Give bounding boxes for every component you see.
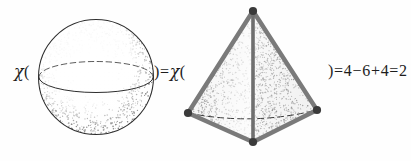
euler-characteristic-result: 2 bbox=[399, 62, 407, 79]
equals-sign-first: = bbox=[334, 62, 344, 79]
tetrahedron-vertex-right bbox=[313, 106, 321, 114]
chi-symbol-left: χ bbox=[14, 62, 24, 81]
close-paren-middle: ) bbox=[154, 63, 160, 80]
expression-right: )=4−6+4=2 bbox=[328, 62, 407, 80]
chi-symbol-middle: χ bbox=[170, 62, 180, 81]
tetrahedron-shade-left bbox=[188, 11, 253, 142]
equals-sign-second: = bbox=[389, 62, 399, 79]
tetrahedron-vertex-apex bbox=[249, 7, 257, 15]
minus-sign: − bbox=[352, 62, 362, 79]
face-count: 4 bbox=[344, 62, 352, 79]
open-paren-middle: ( bbox=[180, 63, 186, 80]
tetrahedron-shape bbox=[184, 7, 321, 146]
figure-canvas bbox=[0, 0, 411, 161]
plus-sign: + bbox=[370, 62, 380, 79]
tetrahedron-vertex-left bbox=[184, 109, 192, 117]
equals-sign-middle: = bbox=[160, 63, 170, 80]
open-paren-left: ( bbox=[24, 63, 30, 80]
tetrahedron-vertex-bottom bbox=[249, 138, 257, 146]
expression-left: χ( bbox=[14, 62, 29, 81]
euler-characteristic-figure: χ( )=χ( )=4−6+4=2 bbox=[0, 0, 411, 161]
expression-middle: )=χ( bbox=[154, 62, 185, 81]
sphere-highlight bbox=[39, 20, 154, 135]
close-paren-right: ) bbox=[328, 62, 334, 79]
vertex-count: 4 bbox=[381, 62, 389, 79]
sphere-shape bbox=[38, 20, 154, 135]
tetrahedron-shade-right bbox=[253, 11, 317, 142]
